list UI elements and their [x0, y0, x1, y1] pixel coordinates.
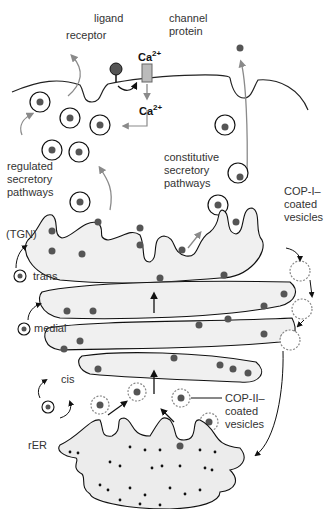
constitutive-pathways-label: constitutive secretory pathways [164, 151, 219, 190]
ca-text: Ca [138, 51, 152, 63]
diagram-artwork [0, 0, 332, 509]
secretory-pathway-diagram: ligand receptor channel protein Ca2+ Ca2… [0, 0, 332, 509]
medial-label: medial [34, 322, 66, 335]
cop1-label: COP-I– coated vesicles [284, 185, 323, 224]
calcium-top-label: Ca2+ [138, 47, 161, 64]
trans-golgi-network [25, 208, 263, 283]
cop1-vesicles [280, 261, 312, 350]
ca-charge: 2+ [153, 103, 162, 112]
tgn-label: (TGN) [6, 228, 37, 241]
golgi-cisterna-2 [45, 318, 295, 350]
regulated-pathways-label: regulated secretory pathways [7, 160, 53, 199]
ca-text: Ca [139, 105, 153, 117]
trans-label: trans [33, 270, 57, 283]
cop2-label: COP-II– coated vesicles [225, 392, 265, 431]
channel-protein-label: channel protein [169, 12, 208, 38]
rer-label: rER [28, 439, 47, 452]
calcium-bottom-label: Ca2+ [139, 101, 162, 118]
ligand-icon [110, 63, 122, 75]
ca-charge: 2+ [152, 49, 161, 58]
cis-label: cis [61, 373, 74, 386]
receptor-label: receptor [66, 29, 106, 42]
rough-er [59, 418, 244, 509]
golgi-medial-cisterna [39, 281, 295, 318]
channel-protein-icon [142, 64, 152, 82]
ligand-label: ligand [94, 12, 123, 25]
